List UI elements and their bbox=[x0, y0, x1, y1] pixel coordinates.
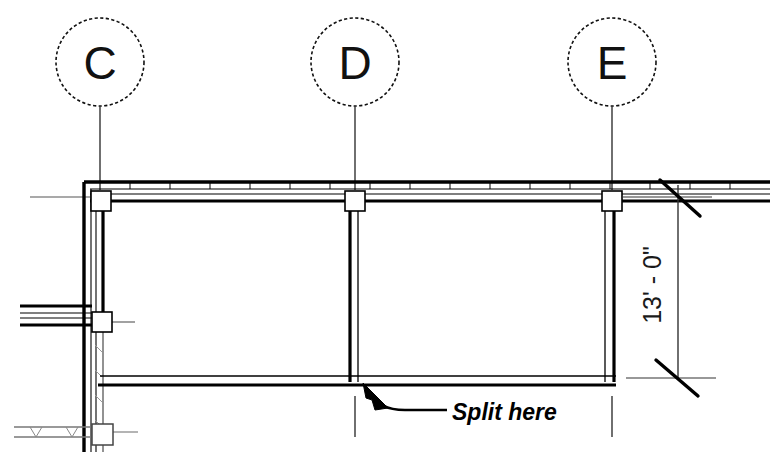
grid-bubble-c[interactable]: C bbox=[56, 18, 144, 190]
middle-interior-wall bbox=[350, 208, 358, 382]
column-grid-c-stub[interactable] bbox=[92, 312, 112, 332]
column-box-d bbox=[345, 191, 365, 211]
top-wall-stud-ticks bbox=[130, 183, 730, 189]
split-here-annotation[interactable]: Split here bbox=[363, 383, 557, 425]
split-here-arrowhead-icon bbox=[363, 383, 388, 410]
floor-plan-drawing: C D E bbox=[0, 0, 770, 466]
column-grid-c[interactable] bbox=[91, 191, 111, 211]
column-box-c bbox=[91, 191, 111, 211]
top-exterior-wall bbox=[30, 182, 770, 201]
column-box-c-stub bbox=[92, 312, 112, 332]
column-grid-d[interactable] bbox=[345, 191, 365, 211]
column-box-e bbox=[602, 191, 622, 211]
grid-bubble-label-d: D bbox=[338, 37, 371, 89]
column-grid-e[interactable] bbox=[602, 191, 622, 211]
column-grid-c-bottom[interactable] bbox=[92, 424, 113, 445]
grid-bubble-label-c: C bbox=[83, 37, 116, 89]
grid-bubble-d[interactable]: D bbox=[311, 18, 399, 190]
dimension-13-0[interactable]: 13' - 0" bbox=[622, 180, 716, 396]
bottom-interior-wall bbox=[98, 376, 616, 385]
break-line-zigzag bbox=[30, 427, 78, 437]
right-interior-wall bbox=[605, 208, 614, 382]
dimension-tick-top bbox=[660, 180, 700, 216]
bottom-left-break-wall bbox=[14, 427, 138, 437]
grid-bubble-e[interactable]: E bbox=[568, 18, 656, 190]
grid-bubble-label-e: E bbox=[597, 37, 628, 89]
column-box-c-bottom bbox=[92, 424, 113, 445]
dimension-value-label: 13' - 0" bbox=[638, 246, 666, 324]
split-here-label: Split here bbox=[452, 399, 557, 425]
plan-canvas: C D E bbox=[0, 0, 770, 466]
left-wall-stub bbox=[20, 306, 135, 325]
